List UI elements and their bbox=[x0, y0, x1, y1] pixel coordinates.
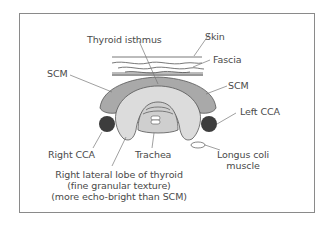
label-longus-coli: Longus coli muscle bbox=[212, 149, 274, 171]
skin-lines bbox=[112, 57, 204, 73]
label-thyroid-isthmus: Thyroid isthmus bbox=[87, 34, 162, 45]
longus-coli bbox=[191, 142, 205, 148]
label-right-cca: Right CCA bbox=[48, 149, 95, 160]
thyroid-diagram bbox=[0, 0, 331, 240]
label-left-cca: Left CCA bbox=[240, 106, 280, 117]
label-trachea: Trachea bbox=[135, 149, 171, 160]
label-scm-left: SCM bbox=[47, 68, 68, 79]
right-cca bbox=[99, 116, 115, 132]
label-skin: Skin bbox=[205, 31, 225, 42]
label-fascia: Fascia bbox=[213, 54, 241, 65]
left-cca bbox=[201, 116, 217, 132]
fascia-band bbox=[112, 73, 203, 76]
label-scm-right: SCM bbox=[228, 80, 249, 91]
label-right-lateral-lobe: Right lateral lobe of thyroid (fine gran… bbox=[44, 169, 194, 202]
